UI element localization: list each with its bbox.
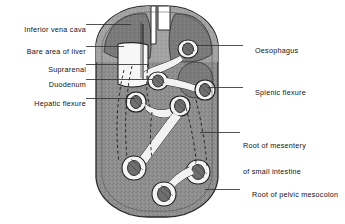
label-root-of-pelvic-mesocolon: Root of pelvic mesocolon xyxy=(243,182,338,208)
label-oesophagus-text: Oesophagus xyxy=(255,46,298,55)
label-splenic-flexure-text: Splenic flexure xyxy=(255,88,306,97)
label-root-of-mesentery-line2: of small intestine xyxy=(243,168,306,177)
vertebral-notch xyxy=(158,6,170,30)
duodenum-structure xyxy=(148,72,168,90)
anatomical-diagram: Inferior vena cava Bare area of liver Su… xyxy=(0,0,345,224)
label-hepatic-flexure: Hepatic flexure xyxy=(8,91,86,117)
oesophagus-structure xyxy=(178,40,198,58)
hepatic-flexure-structure xyxy=(126,92,146,112)
label-root-of-mesentery-line1: Root of mesentery xyxy=(243,142,306,151)
label-root-of-pelvic-mesocolon-text: Root of pelvic mesocolon xyxy=(252,190,338,199)
label-hepatic-flexure-text: Hepatic flexure xyxy=(34,99,86,108)
label-inferior-vena-cava-text: Inferior vena cava xyxy=(24,25,86,34)
label-duodenum-text: Duodenum xyxy=(49,80,86,89)
label-bare-area-of-liver-text: Bare area of liver xyxy=(27,47,86,56)
label-oesophagus: Oesophagus xyxy=(246,38,298,64)
label-splenic-flexure: Splenic flexure xyxy=(246,80,306,106)
